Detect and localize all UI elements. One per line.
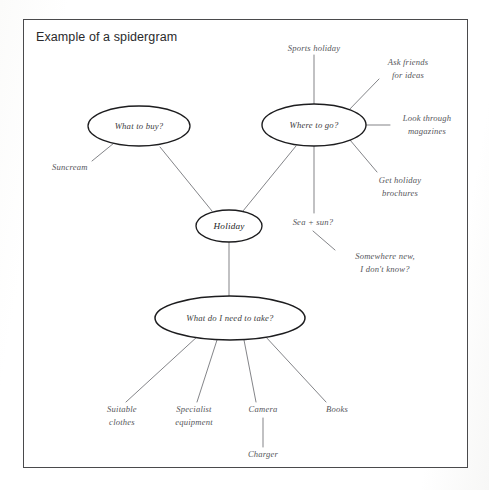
edge-what-to-take-specialist-equipment [197, 340, 217, 402]
edge-holiday-to-where-to-go [243, 146, 296, 211]
leaf-label-specialist-equipment[interactable]: Specialist equipment [175, 403, 213, 428]
edge-holiday-to-what-to-buy [160, 147, 212, 211]
node-label-what-do-i-need-to-take[interactable]: What do I need to take? [186, 313, 273, 323]
leaf-label-sea-and-sun[interactable]: Sea + sun? [293, 216, 334, 229]
edge-sea-sun-somewhere-new [313, 231, 335, 250]
leaf-label-suncream[interactable]: Suncream [52, 161, 88, 174]
leaf-label-ask-friends-for-ideas[interactable]: Ask friends for ideas [388, 56, 429, 81]
screenshot-root: Example of a spidergram [0, 0, 489, 490]
leaf-label-look-through-magazines[interactable]: Look through magazines [403, 112, 452, 137]
edge-what-to-take-books [265, 336, 326, 402]
leaf-label-somewhere-new[interactable]: Somewhere new, I don't know? [355, 250, 415, 275]
edge-what-to-take-suitable-clothes [126, 336, 198, 402]
leaf-label-charger[interactable]: Charger [248, 448, 278, 461]
leaf-label-camera[interactable]: Camera [249, 403, 278, 416]
edge-what-to-take-camera [244, 340, 256, 402]
node-label-where-to-go[interactable]: Where to go? [290, 120, 339, 130]
edge-what-to-buy-suncream [92, 143, 114, 161]
node-label-holiday[interactable]: Holiday [214, 221, 245, 231]
leaf-label-get-holiday-brochures[interactable]: Get holiday brochures [379, 174, 422, 199]
leaf-label-suitable-clothes[interactable]: Suitable clothes [107, 403, 137, 428]
leaf-label-sports-holiday[interactable]: Sports holiday [288, 42, 341, 55]
edge-where-to-go-get-holiday-brochures [350, 140, 377, 172]
leaf-label-books[interactable]: Books [326, 403, 348, 416]
node-label-what-to-buy[interactable]: What to buy? [115, 121, 164, 131]
edge-where-to-go-ask-friends [347, 79, 379, 112]
